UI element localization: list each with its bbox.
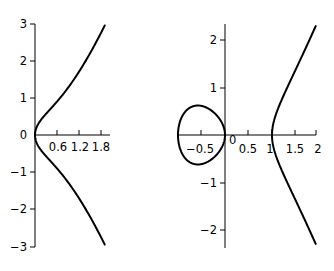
left-y-label: −1 bbox=[10, 165, 27, 179]
left-y-label: −2 bbox=[10, 202, 27, 216]
left-y-label: 3 bbox=[20, 17, 27, 31]
left-y-label: 1 bbox=[20, 91, 27, 105]
right-y-label: 2 bbox=[210, 33, 217, 47]
right-plot: 2 1 −1 −2 0 −0.5 0.5 1 1.5 2 bbox=[178, 24, 322, 248]
right-x-label: 0.5 bbox=[239, 142, 257, 156]
left-zero-label: 0 bbox=[20, 128, 27, 142]
figure: 3 2 1 0 −1 −2 −3 0.6 1.2 1.8 2 1 −1 −2 0… bbox=[0, 0, 334, 271]
left-x-label: 0.6 bbox=[49, 140, 67, 154]
right-x-label: −0.5 bbox=[186, 142, 214, 156]
left-y-label: −3 bbox=[10, 240, 27, 254]
right-x-label: 1.5 bbox=[286, 142, 304, 156]
left-x-label: 1.2 bbox=[71, 140, 89, 154]
left-plot: 3 2 1 0 −1 −2 −3 0.6 1.2 1.8 bbox=[10, 17, 110, 254]
left-y-label: 2 bbox=[20, 54, 27, 68]
right-y-label: −2 bbox=[200, 223, 217, 237]
left-x-label: 1.8 bbox=[92, 140, 110, 154]
right-y-label: 1 bbox=[210, 81, 217, 95]
right-zero-label: 0 bbox=[229, 133, 236, 147]
right-x-label: 2 bbox=[314, 142, 321, 156]
right-y-label: −1 bbox=[200, 176, 217, 190]
